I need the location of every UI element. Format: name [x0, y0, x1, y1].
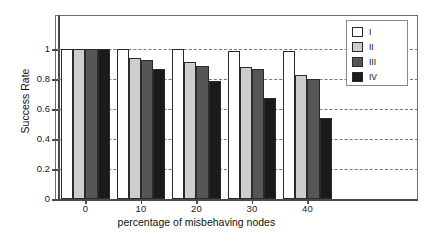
legend-swatch-III — [352, 57, 363, 67]
y-tick-label-0: 0 — [18, 193, 50, 204]
bar-III-0 — [85, 49, 97, 199]
bar-III-10 — [141, 60, 153, 200]
bar-III-40 — [307, 79, 319, 199]
bar-II-20 — [184, 62, 196, 199]
bar-III-30 — [252, 69, 264, 199]
bar-II-10 — [129, 58, 141, 199]
legend-item-III: III — [352, 55, 402, 69]
bar-III-20 — [196, 66, 208, 200]
bar-II-0 — [73, 49, 85, 199]
legend-item-II: II — [352, 40, 402, 54]
x-tick-label-10: 10 — [121, 203, 161, 214]
bar-IV-0 — [98, 49, 110, 199]
bar-II-40 — [295, 75, 307, 200]
figure-bar-chart: 00.20.40.60.81 010203040 Success Rate pe… — [0, 0, 433, 241]
y-tick-mark — [52, 199, 58, 201]
bar-I-20 — [172, 49, 184, 199]
legend-label-I: I — [369, 28, 371, 37]
x-tick-label-0: 0 — [65, 203, 105, 214]
legend-swatch-IV — [352, 72, 363, 82]
legend-label-IV: IV — [369, 73, 377, 82]
legend-item-I: I — [352, 25, 402, 39]
bar-IV-30 — [264, 98, 276, 199]
x-axis-title: percentage of misbehaving nodes — [46, 216, 346, 228]
bar-IV-10 — [153, 69, 165, 199]
bar-I-0 — [61, 49, 73, 199]
y-axis-title: Success Rate — [19, 46, 31, 156]
legend-label-II: II — [369, 43, 374, 52]
legend-item-IV: IV — [352, 70, 402, 84]
x-tick-label-20: 20 — [176, 203, 216, 214]
legend-label-III: III — [369, 58, 376, 67]
legend: IIIIIIIV — [346, 20, 408, 86]
x-axis-line — [58, 199, 418, 201]
bar-I-10 — [117, 49, 129, 199]
x-tick-label-30: 30 — [232, 203, 272, 214]
bar-IV-40 — [320, 118, 332, 199]
legend-swatch-I — [352, 27, 363, 37]
x-tick-label-40: 40 — [287, 203, 327, 214]
bar-I-40 — [283, 51, 295, 200]
y-tick-label-0.2: 0.2 — [18, 163, 50, 174]
bar-IV-20 — [209, 81, 221, 199]
legend-swatch-II — [352, 42, 363, 52]
bar-I-30 — [228, 51, 240, 200]
bar-II-30 — [240, 67, 252, 199]
